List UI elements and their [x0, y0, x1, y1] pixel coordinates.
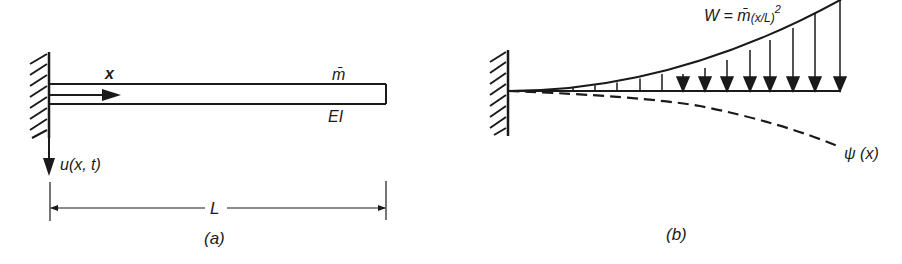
load-arrow-icon [677, 74, 689, 91]
x-axis-arrow-icon [49, 89, 121, 101]
load-arrow-icon [699, 68, 711, 91]
load-arrow-icon [721, 60, 733, 91]
figure-a: x m̄ EI u(x, t) L (a) [30, 52, 386, 248]
displacement-label: u(x, t) [60, 156, 101, 173]
caption-b: (b) [666, 225, 687, 244]
load-formula-main: W = m̄ [704, 7, 751, 24]
cantilever-beam-figure: x m̄ EI u(x, t) L (a) [0, 0, 902, 264]
load-arrow-icon [834, 0, 846, 91]
x-axis-label: x [104, 65, 115, 82]
fixed-support-a [30, 52, 49, 138]
figure-b: W = m̄(x/L)2 ψ (x) (b) [490, 0, 879, 244]
mass-label: m̄ [332, 66, 345, 83]
length-label: L [210, 199, 219, 218]
load-formula-exponent: 2 [774, 3, 781, 15]
caption-a: (a) [204, 229, 225, 248]
load-arrow-icon [787, 28, 799, 91]
load-formula-label: W = m̄(x/L)2 [704, 3, 781, 25]
stiffness-label: EI [328, 108, 344, 125]
fixed-support-b [490, 50, 508, 136]
load-arrow-icon [764, 40, 776, 91]
load-arrow-icon [744, 50, 756, 91]
displacement-arrow-icon [43, 138, 55, 176]
load-arrow-icon [809, 13, 821, 91]
deflected-shape-curve [508, 91, 840, 147]
load-formula-paren: (x/L) [751, 11, 775, 25]
shape-function-label: ψ (x) [844, 145, 879, 162]
